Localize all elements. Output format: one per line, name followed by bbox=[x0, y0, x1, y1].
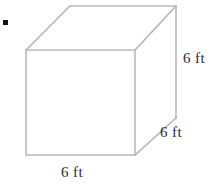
cube-diagram: 6 ft 6 ft 6 ft bbox=[0, 0, 216, 188]
cube-top-right-edge bbox=[135, 6, 176, 50]
dimension-label-depth: 6 ft bbox=[160, 124, 182, 141]
cube-top-left-edge bbox=[26, 6, 70, 50]
cube-illustration bbox=[0, 0, 216, 188]
dimension-label-height: 6 ft bbox=[183, 50, 205, 67]
dimension-label-width: 6 ft bbox=[61, 164, 83, 181]
cube-front-face-edge bbox=[26, 50, 135, 155]
